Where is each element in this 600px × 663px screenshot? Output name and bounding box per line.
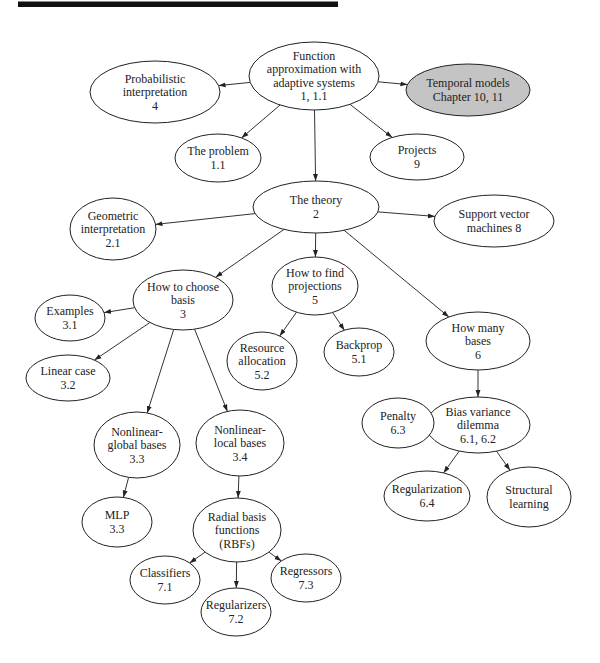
node-label-line: 5.1 — [352, 352, 367, 366]
node-theory: The theory2 — [253, 181, 379, 233]
node-geometric: Geometricinterpretation2.1 — [70, 198, 156, 260]
node-label-line: 1, 1.1 — [301, 89, 328, 103]
edge-theory-to-svm — [378, 212, 435, 217]
node-label-line: MLP — [105, 508, 130, 522]
node-projects: Projects9 — [370, 134, 464, 180]
node-label-line: 6.1, 6.2 — [460, 432, 496, 446]
node-problem: The problem1.1 — [175, 134, 261, 182]
node-label-line: 2 — [313, 207, 319, 221]
node-label-line: 3.4 — [233, 450, 248, 464]
edge-root-to-projects — [350, 104, 392, 137]
edge-bias-to-structural — [497, 451, 511, 470]
node-label-line: 4 — [152, 99, 158, 113]
node-label-line: 6.3 — [391, 423, 406, 437]
node-label-line: 7.3 — [299, 578, 314, 592]
node-regularizers: Regularizers7.2 — [201, 588, 271, 636]
node-label-line: (RBFs) — [219, 537, 254, 551]
node-label-line: 9 — [414, 157, 420, 171]
node-label-line: 7.1 — [158, 580, 173, 594]
node-label-line: machines 8 — [467, 221, 521, 235]
edge-choose-to-nlglobal — [147, 330, 174, 413]
node-label-line: basis — [171, 293, 195, 307]
node-rbf: Radial basisfunctions(RBFs) — [193, 498, 281, 562]
node-label-line: Temporal models — [426, 76, 510, 90]
node-label-line: local bases — [214, 436, 267, 450]
edge-choose-to-linear — [94, 323, 149, 361]
node-label-line: approximation with — [267, 62, 361, 76]
node-find: How to findprojections5 — [272, 257, 358, 315]
edge-rbf-to-regressors — [269, 552, 282, 561]
concept-map-diagram: Functionapproximation withadaptive syste… — [0, 0, 600, 663]
node-label-line: dilemma — [457, 418, 500, 432]
node-label-line: Penalty — [380, 409, 416, 423]
node-label-line: Classifiers — [140, 566, 191, 580]
node-linear: Linear case3.2 — [26, 355, 110, 401]
node-label-line: 2.1 — [106, 236, 121, 250]
node-label-line: How to choose — [147, 280, 219, 294]
node-label-line: functions — [215, 523, 260, 537]
edge-bias-to-regularization — [444, 451, 460, 473]
node-penalty: Penalty6.3 — [362, 398, 434, 448]
node-examples: Examples3.1 — [35, 295, 105, 341]
node-label-line: 1.1 — [211, 158, 226, 172]
node-label-line: Function — [293, 49, 336, 63]
node-label-line: Regressors — [280, 564, 333, 578]
node-label-line: 3.3 — [110, 522, 125, 536]
node-label-line: adaptive systems — [273, 76, 355, 90]
node-label-line: 6 — [475, 348, 481, 362]
node-label-line: 3.2 — [61, 378, 76, 392]
node-label-line: interpretation — [81, 222, 146, 236]
node-classifiers: Classifiers7.1 — [130, 556, 200, 604]
node-label-line: Support vector — [459, 207, 530, 221]
node-label-line: Nonlinear- — [111, 425, 163, 439]
node-label-line: The theory — [290, 193, 342, 207]
node-mlp: MLP3.3 — [82, 497, 152, 547]
node-label-line: Examples — [46, 304, 94, 318]
node-label-line: Bias variance — [446, 405, 511, 419]
edge-nlglobal-to-mlp — [123, 477, 128, 497]
edge-choose-to-examples — [104, 308, 135, 313]
node-label-line: Linear case — [41, 364, 96, 378]
node-regularization: Regularization6.4 — [384, 471, 470, 521]
node-prob: Probabilisticinterpretation4 — [90, 61, 220, 123]
edge-find-to-resource — [280, 312, 297, 336]
node-nllocal: Nonlinear-local bases3.4 — [196, 410, 284, 476]
node-resource: Resourceallocation5.2 — [227, 332, 297, 390]
node-label-line: bases — [465, 334, 491, 348]
node-label-line: 3 — [180, 307, 186, 321]
node-label-line: projections — [288, 279, 342, 293]
node-choose: How to choosebasis3 — [133, 270, 233, 330]
node-label-line: 5.2 — [255, 368, 270, 382]
node-label-line: 7.2 — [229, 612, 244, 626]
edge-rbf-to-classifiers — [190, 552, 206, 563]
node-temporal: Temporal modelsChapter 10, 11 — [406, 64, 530, 116]
node-root: Functionapproximation withadaptive syste… — [249, 42, 379, 110]
node-label-line: global bases — [108, 438, 167, 452]
nodes-layer: Functionapproximation withadaptive syste… — [26, 42, 571, 636]
node-howmany: How manybases6 — [426, 312, 530, 370]
node-label-line: 3.3 — [130, 452, 145, 466]
node-label-line: Regularization — [392, 482, 463, 496]
edge-theory-to-choose — [216, 229, 284, 277]
edge-find-to-backprop — [333, 312, 345, 330]
node-label-line: How many — [452, 321, 505, 335]
edge-nllocal-to-rbf — [238, 476, 239, 498]
edge-root-to-problem — [242, 105, 281, 138]
node-label-line: Chapter 10, 11 — [433, 90, 504, 104]
edge-root-to-temporal — [378, 82, 407, 85]
node-label-line: 3.1 — [63, 318, 78, 332]
node-label-line: Radial basis — [208, 510, 267, 524]
node-label-line: Projects — [398, 143, 437, 157]
node-label-line: Regularizers — [206, 598, 267, 612]
node-label-line: Probabilistic — [125, 72, 186, 86]
node-label-line: The problem — [187, 144, 249, 158]
node-label-line: 6.4 — [420, 496, 435, 510]
edge-root-to-theory — [315, 110, 316, 181]
node-label-line: Nonlinear- — [214, 423, 266, 437]
node-label-line: interpretation — [123, 85, 188, 99]
node-structural: Structurallearning — [487, 467, 571, 527]
node-bias: Bias variancedilemma6.1, 6.2 — [426, 397, 530, 453]
node-label-line: Structural — [505, 483, 553, 497]
node-regressors: Regressors7.3 — [271, 554, 341, 602]
node-label-line: allocation — [238, 354, 285, 368]
